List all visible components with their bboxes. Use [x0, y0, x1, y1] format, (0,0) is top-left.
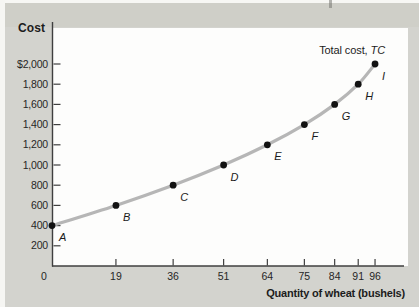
plot-background: [52, 28, 408, 266]
data-point-label: E: [274, 150, 282, 162]
y-tick-label: 1,200: [23, 138, 49, 150]
x-tick-label: 36: [167, 270, 179, 282]
y-tick-label: 1,800: [23, 78, 49, 90]
x-tick-label: 0: [41, 270, 47, 282]
x-tick-label: 64: [262, 270, 274, 282]
curve-label-text: Total cost,: [319, 44, 370, 56]
x-tick-label: 19: [110, 270, 122, 282]
y-tick-label: 200: [31, 239, 48, 251]
data-point: [170, 182, 177, 189]
data-point: [331, 101, 338, 108]
data-point-label: A: [58, 231, 66, 243]
y-tick-label: 600: [31, 199, 48, 211]
data-point: [220, 162, 227, 169]
data-point: [372, 61, 379, 68]
textbook-figure-page: 2004006008001,0001,2001,4001,6001,800$2,…: [0, 0, 419, 307]
data-point: [301, 121, 308, 128]
curve-label-symbol: TC: [371, 44, 385, 56]
x-tick-label: 84: [329, 270, 341, 282]
y-tick-label: 1,600: [23, 98, 49, 110]
data-point-label: G: [342, 110, 351, 122]
data-point-label: D: [231, 171, 239, 183]
data-point-label: H: [365, 90, 373, 102]
data-point-label: C: [180, 191, 188, 203]
x-tick-label: 91: [352, 270, 364, 282]
data-point-label: B: [123, 211, 130, 223]
data-point: [113, 202, 120, 209]
y-tick-label: 400: [31, 219, 48, 231]
y-axis-title: Cost: [18, 21, 45, 35]
data-point: [355, 81, 362, 88]
data-point: [49, 222, 56, 229]
x-axis-title: Quantity of wheat (bushels): [266, 287, 405, 299]
x-tick-label: 75: [299, 270, 311, 282]
y-tick-label: $2,000: [17, 58, 48, 70]
x-tick-label: 96: [369, 270, 381, 282]
x-tick-label: 51: [218, 270, 230, 282]
data-point: [264, 141, 271, 148]
y-tick-label: 1,400: [23, 118, 49, 130]
y-tick-label: 1,000: [23, 159, 49, 171]
curve-label: Total cost, TC: [319, 44, 385, 56]
data-point-label: I: [382, 70, 385, 82]
y-tick-label: 800: [31, 179, 48, 191]
